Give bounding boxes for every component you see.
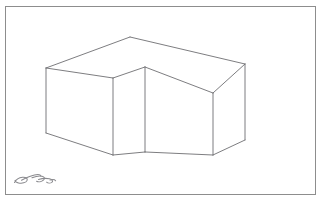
artist-signature <box>12 168 58 190</box>
top-face-back-right <box>130 37 245 64</box>
bottom-left-face <box>46 133 113 155</box>
top-face-front-right <box>213 64 245 93</box>
bottom-notch-right <box>145 152 213 155</box>
top-face-notch-left <box>113 67 145 78</box>
bottom-right-face <box>213 140 245 155</box>
bottom-notch-left <box>113 152 145 155</box>
top-face-front-left <box>46 68 113 78</box>
top-face-back-left <box>46 37 130 68</box>
top-face-notch-right <box>145 67 213 93</box>
drawing-canvas <box>0 0 323 201</box>
